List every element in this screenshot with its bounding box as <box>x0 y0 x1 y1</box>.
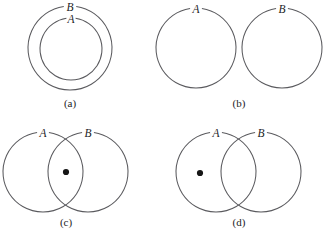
circle-a-panel-c <box>3 132 83 212</box>
set-label-b-panel-c: B <box>84 127 91 139</box>
venn-diagram-figure: B A (a) A B (b) A B (c) A B (d <box>0 0 330 232</box>
circle-a-panel-a <box>40 18 102 80</box>
circle-b-panel-d <box>221 132 301 212</box>
set-label-a-panel-d: A <box>211 127 220 139</box>
circle-a-panel-d <box>176 132 256 212</box>
circle-b-panel-b <box>242 8 322 88</box>
panel-b: A B (b) <box>156 3 322 110</box>
panel-caption-a: (a) <box>64 97 77 110</box>
circle-b-panel-c <box>48 132 128 212</box>
set-label-b-panel-b: B <box>278 3 285 15</box>
set-label-b-panel-d: B <box>257 127 264 139</box>
set-label-b-panel-a: B <box>66 1 73 13</box>
panel-caption-b: (b) <box>233 97 246 110</box>
set-label-a-panel-a: A <box>66 13 75 25</box>
panel-caption-c: (c) <box>60 216 73 229</box>
circle-a-panel-b <box>156 8 236 88</box>
panel-d: A B (d) <box>176 127 301 229</box>
set-label-a-panel-c: A <box>38 127 47 139</box>
element-dot-panel-d <box>197 170 203 176</box>
panel-caption-d: (d) <box>233 216 246 229</box>
figure-canvas: B A (a) A B (b) A B (c) A B (d <box>0 0 330 232</box>
element-dot-panel-c <box>63 169 69 175</box>
panel-a: B A (a) <box>28 1 112 110</box>
set-label-a-panel-b: A <box>191 3 200 15</box>
panel-c: A B (c) <box>3 127 128 229</box>
